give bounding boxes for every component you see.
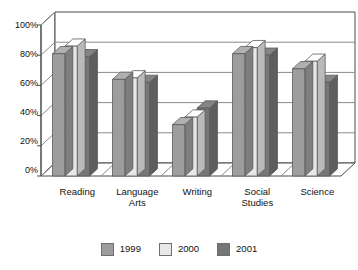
bar-reading-1999 bbox=[53, 46, 73, 176]
legend-label-1999: 1999 bbox=[120, 244, 141, 254]
legend-label-2001: 2001 bbox=[236, 244, 257, 254]
legend-item-2000: 2000 bbox=[159, 243, 199, 256]
x-axis-labels: Reading Language Arts Writing Social Stu… bbox=[0, 186, 358, 220]
bar-writing-1999 bbox=[173, 117, 193, 176]
x-tick-science: Science bbox=[277, 186, 357, 197]
chart-canvas bbox=[0, 0, 358, 270]
bar-chart: 100% 80% 60% 40% 20% 0% Reading Language… bbox=[0, 0, 358, 270]
legend-item-2001: 2001 bbox=[217, 243, 257, 256]
bar-science-1999 bbox=[293, 62, 313, 176]
legend: 1999 2000 2001 bbox=[0, 240, 358, 258]
bar-language-arts-1999 bbox=[113, 72, 133, 176]
legend-item-1999: 1999 bbox=[101, 243, 141, 256]
bar-social-studies-1999 bbox=[233, 46, 253, 176]
plot-area bbox=[0, 0, 358, 270]
legend-swatch-1999 bbox=[101, 243, 114, 256]
legend-swatch-2001 bbox=[217, 243, 230, 256]
legend-swatch-2000 bbox=[159, 243, 172, 256]
legend-label-2000: 2000 bbox=[178, 244, 199, 254]
